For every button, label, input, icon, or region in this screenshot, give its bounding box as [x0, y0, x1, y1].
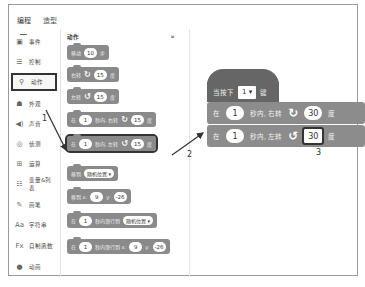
operators-icon: ⊞ — [15, 160, 24, 169]
category-sidebar: ▣事件 ☰控制 ⚲动作 ☗外观 ◀)声音 ◎侦测 ⊞运算 ☷变量&列表 ✎画笔 … — [9, 29, 61, 276]
ws-block-timed-turn-right[interactable]: 在 1 秒内, 右转 ↻ 30 度 — [207, 102, 365, 124]
block-glide-to[interactable]: 在 1 秒内滑行到 随机位置 ▾ — [67, 213, 157, 228]
block-timed-turn-right[interactable]: 在 1 秒内, 右转 ↻ 15 度 — [67, 112, 156, 127]
sidebar-item-sound[interactable]: ◀)声音 — [11, 115, 57, 133]
degrees-input[interactable]: 15 — [131, 139, 144, 149]
degrees-input[interactable]: 15 — [94, 92, 107, 102]
rotate-ccw-icon: ↺ — [84, 92, 91, 101]
rotate-cw-icon: ↻ — [84, 70, 91, 79]
sidebar-item-functions[interactable]: Fx自制函数 — [11, 237, 57, 255]
animation-icon: ● — [15, 263, 24, 272]
sidebar-item-events[interactable]: ▣事件 — [11, 33, 57, 51]
block-glide-to-xy[interactable]: 在 1 秒内滑行到 x: 9 y: -26 — [67, 239, 170, 254]
sidebar-item-pen[interactable]: ✎画笔 — [11, 196, 57, 214]
steps-input[interactable]: 10 — [84, 48, 97, 58]
seconds-input[interactable]: 1 — [79, 216, 92, 226]
string-icon: Aa — [15, 221, 24, 230]
rotate-ccw-icon: ↺ — [121, 139, 128, 148]
rotate-cw-icon: ↻ — [288, 106, 298, 120]
key-dropdown[interactable]: 1 ▾ — [238, 86, 256, 99]
block-turn-left[interactable]: 左转 ↺ 15 度 — [67, 89, 119, 104]
control-icon: ☰ — [15, 58, 24, 67]
degrees-input[interactable]: 30 — [304, 106, 322, 120]
lock-icon[interactable]: 🔒︎ — [171, 32, 174, 40]
sidebar-item-sensing[interactable]: ◎侦测 — [11, 135, 57, 153]
block-palette: 动作 🔒︎ 移动 10 步 右转 ↻ 15 度 左转 ↺ 15 度 在 1 秒内… — [61, 29, 183, 276]
target-dropdown[interactable]: 随机位置 ▾ — [84, 169, 114, 178]
block-move-steps[interactable]: 移动 10 步 — [67, 45, 109, 60]
sidebar-item-string[interactable]: Aa字符串 — [11, 216, 57, 234]
script-workspace[interactable]: 当按下 1 ▾ 键 在 1 秒内, 右转 ↻ 30 度 在 1 秒内, 左转 ↺… — [189, 29, 359, 276]
sound-icon: ◀) — [15, 120, 24, 129]
sidebar-item-variables[interactable]: ☷变量&列表 — [11, 175, 57, 193]
sidebar-item-control[interactable]: ☰控制 — [11, 53, 57, 71]
x-input[interactable]: 9 — [90, 192, 103, 202]
callout-3: 3 — [316, 148, 321, 157]
y-input[interactable]: -26 — [153, 242, 166, 252]
seconds-input[interactable]: 1 — [79, 115, 92, 125]
block-go-to-xy[interactable]: 移到 x: 9 y: -26 — [67, 189, 131, 204]
seconds-input[interactable]: 1 — [79, 139, 92, 149]
palette-title: 动作 — [67, 33, 79, 41]
seconds-input[interactable]: 1 — [79, 242, 92, 252]
sidebar-item-looks[interactable]: ☗外观 — [11, 95, 57, 113]
target-dropdown[interactable]: 随机位置 ▾ — [123, 216, 153, 225]
seconds-input[interactable]: 1 — [226, 106, 244, 120]
event-icon: ▣ — [15, 38, 24, 47]
callout-1: 1 — [42, 114, 47, 123]
y-input[interactable]: -26 — [114, 192, 127, 202]
motion-icon: ⚲ — [17, 78, 26, 87]
x-input[interactable]: 9 — [129, 242, 142, 252]
degrees-input[interactable]: 30 — [304, 129, 322, 143]
sidebar-item-motion[interactable]: ⚲动作 — [11, 73, 57, 91]
sidebar-item-animation[interactable]: ●动画 — [11, 258, 57, 276]
rotate-cw-icon: ↻ — [121, 115, 128, 124]
callout-2: 2 — [187, 150, 192, 159]
when-key-pressed-block[interactable]: 当按下 1 ▾ 键 — [207, 82, 279, 102]
looks-icon: ☗ — [15, 100, 24, 109]
block-timed-turn-left[interactable]: 在 1 秒内, 左转 ↺ 15 度 — [67, 136, 156, 151]
rotate-ccw-icon: ↺ — [288, 129, 298, 143]
degrees-input[interactable]: 15 — [131, 115, 144, 125]
block-go-to[interactable]: 移到 随机位置 ▾ — [67, 166, 118, 181]
degrees-input[interactable]: 15 — [94, 70, 107, 80]
editor-window: 编程 造型 ▣事件 ☰控制 ⚲动作 ☗外观 ◀)声音 ◎侦测 ⊞运算 ☷变量&列… — [8, 4, 358, 276]
ws-block-timed-turn-left[interactable]: 在 1 秒内, 左转 ↺ 30 度 — [207, 125, 365, 147]
sensing-icon: ◎ — [15, 140, 24, 149]
variables-icon: ☷ — [15, 180, 24, 189]
block-turn-right[interactable]: 右转 ↻ 15 度 — [67, 67, 119, 82]
seconds-input[interactable]: 1 — [226, 129, 244, 143]
function-icon: Fx — [15, 242, 24, 251]
sidebar-item-operators[interactable]: ⊞运算 — [11, 155, 57, 173]
pen-icon: ✎ — [15, 201, 24, 210]
